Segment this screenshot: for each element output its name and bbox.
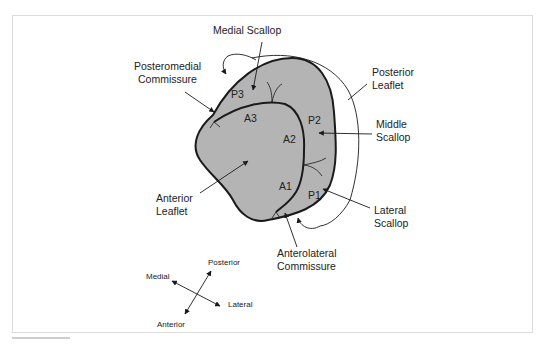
segment-a2: A2 [283, 133, 296, 145]
orientation-compass [172, 271, 220, 314]
label-anterolateral-1: Anterolateral [277, 247, 337, 259]
label-anterior-1: Anterior [156, 192, 193, 204]
label-posteromedial-2: Commissure [138, 73, 197, 85]
segment-p3: P3 [231, 88, 244, 100]
posterior-leaflet-pointer [348, 84, 367, 100]
label-middle-1: Middle [376, 118, 407, 130]
compass-posterior: Posterior [208, 258, 240, 267]
compass-anterior: Anterior [157, 320, 185, 329]
label-middle-2: Scallop [376, 131, 411, 143]
label-posterior-2: Leaflet [372, 79, 404, 91]
segment-a1: A1 [279, 180, 292, 192]
segment-p1: P1 [308, 189, 321, 201]
label-posteromedial-1: Posteromedial [134, 60, 201, 72]
segment-p2: P2 [308, 114, 321, 126]
label-anterolateral-2: Commissure [277, 260, 336, 272]
mitral-valve-diagram: Medial Scallop Posteromedial Commissure … [0, 0, 550, 344]
posteromedial-commissure-pointer [185, 92, 214, 112]
label-medial-scallop: Medial Scallop [213, 24, 281, 36]
label-posterior-1: Posterior [372, 66, 415, 78]
compass-medial: Medial [146, 272, 170, 281]
label-anterior-2: Leaflet [156, 205, 188, 217]
anterolateral-commissure-pointer [285, 213, 297, 247]
compass-lateral: Lateral [228, 300, 253, 309]
label-lateral-1: Lateral [374, 204, 406, 216]
label-lateral-2: Scallop [374, 217, 409, 229]
lateral-curve-arrow [298, 218, 320, 228]
segment-a3: A3 [244, 112, 257, 124]
